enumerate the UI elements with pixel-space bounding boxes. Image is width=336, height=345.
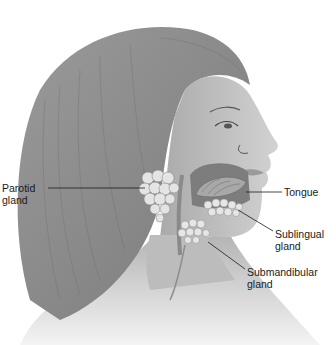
head-neck-illustration (0, 0, 336, 345)
parotid-gland-label: Parotid gland (2, 182, 35, 206)
sublingual-gland-label: Sublingual gland (275, 228, 324, 252)
submandibular-gland-label: Submandibular gland (247, 266, 318, 290)
anatomy-figure: Parotid gland Tongue Sublingual gland Su… (0, 0, 336, 345)
tongue-label: Tongue (284, 186, 318, 198)
